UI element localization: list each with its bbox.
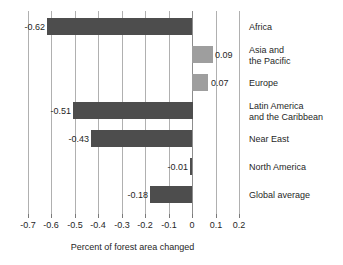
bar <box>190 158 192 175</box>
x-tick-mark <box>145 214 146 218</box>
plot-area: -0.620.090.07-0.51-0.43-0.01-0.18 Africa… <box>0 0 343 215</box>
bar <box>192 46 213 63</box>
category-label: Europe <box>249 78 278 89</box>
x-tick-mark <box>122 214 123 218</box>
x-tick-mark <box>216 214 217 218</box>
x-tick-mark <box>169 214 170 218</box>
bar-value-label: -0.18 <box>124 190 148 200</box>
bar-value-label: -0.51 <box>47 106 71 116</box>
category-label: North America <box>249 162 306 173</box>
x-tick-mark <box>28 214 29 218</box>
forest-area-change-chart: -0.620.090.07-0.51-0.43-0.01-0.18 Africa… <box>0 0 343 265</box>
gridline-0.2 <box>239 11 240 214</box>
bar <box>47 18 192 35</box>
category-label: Near East <box>249 134 289 145</box>
category-label: Latin America and the Caribbean <box>249 101 323 123</box>
category-label: Asia and the Pacific <box>249 45 291 67</box>
x-tick-mark <box>192 214 193 218</box>
bar <box>192 74 208 91</box>
x-tick-label: 0.2 <box>224 220 254 231</box>
x-tick-mark <box>98 214 99 218</box>
bar-value-label: 0.07 <box>211 78 229 88</box>
bar <box>150 186 192 203</box>
bar-value-label: -0.01 <box>164 162 188 172</box>
gridline--0.7 <box>28 11 29 214</box>
category-label: Global average <box>249 190 310 201</box>
x-tick-mark <box>239 214 240 218</box>
category-label: Africa <box>249 22 272 33</box>
x-axis-title: Percent of forest area changed <box>0 241 265 253</box>
x-tick-mark <box>51 214 52 218</box>
bar <box>73 102 193 119</box>
bar-value-label: -0.43 <box>65 134 89 144</box>
bar-value-label: 0.09 <box>215 50 233 60</box>
bar-value-label: -0.62 <box>21 22 45 32</box>
bar <box>91 130 192 147</box>
gridline-0.1 <box>216 11 217 214</box>
x-tick-mark <box>75 214 76 218</box>
